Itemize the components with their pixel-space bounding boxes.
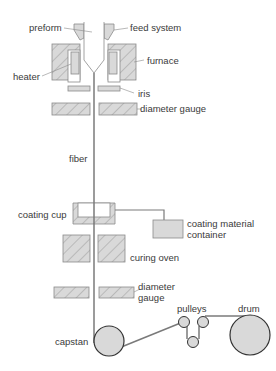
heater-element xyxy=(71,52,79,74)
capstan xyxy=(94,326,124,356)
label-coating-material-line2: container xyxy=(187,229,226,240)
label-heater: heater xyxy=(13,71,40,82)
label-diameter-gauge-bottom-line1: diameter xyxy=(138,281,175,292)
label-fiber: fiber xyxy=(69,153,87,164)
label-drum: drum xyxy=(238,303,260,314)
label-capstan: capstan xyxy=(55,336,88,347)
label-curing-oven: curing oven xyxy=(130,252,179,263)
preform xyxy=(84,22,104,73)
label-diameter-gauge-top: diameter gauge xyxy=(140,103,206,114)
label-feed-system: feed system xyxy=(130,22,181,33)
furnace-right xyxy=(108,44,136,82)
coating-material-container xyxy=(153,220,183,238)
label-furnace: furnace xyxy=(147,55,179,66)
label-coating-cup: coating cup xyxy=(18,209,67,220)
furnace-left xyxy=(52,44,80,82)
drum xyxy=(230,315,270,355)
label-preform: preform xyxy=(29,22,62,33)
fiber-drawing-diagram xyxy=(0,0,276,371)
pulleys xyxy=(179,317,209,348)
label-coating-material-line1: coating material xyxy=(187,218,254,229)
label-iris: iris xyxy=(138,88,150,99)
label-diameter-gauge-bottom-line2: gauge xyxy=(138,292,164,303)
label-pulleys: pulleys xyxy=(177,303,207,314)
